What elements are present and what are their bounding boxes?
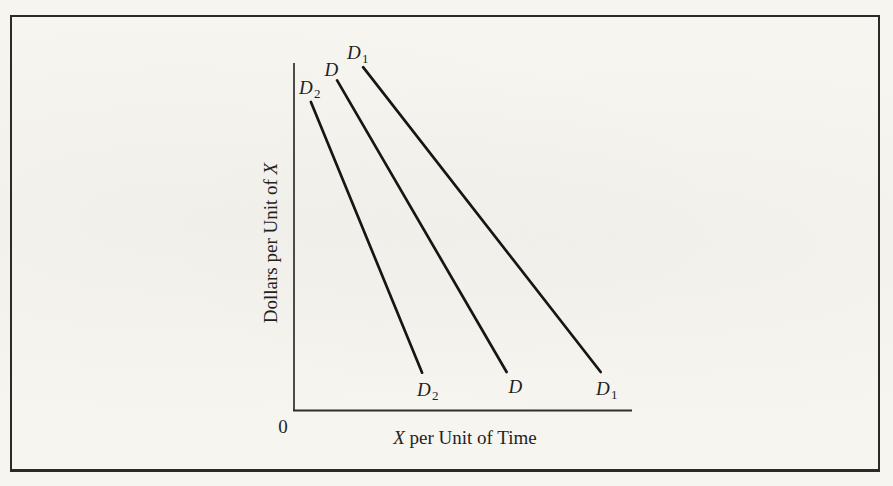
y-axis-label-italic: X <box>260 163 281 175</box>
y-axis-label-rest: Dollars per Unit of <box>260 174 281 323</box>
curve-label-D-bottom: D <box>508 377 523 399</box>
x-axis-label-italic: X <box>393 427 405 448</box>
curve-label-D1-bottom: D1 <box>596 379 618 401</box>
demand-curves-group <box>311 67 601 373</box>
curve-label-subscript: 2 <box>432 388 439 403</box>
x-axis-label-rest: per Unit of Time <box>405 427 537 448</box>
curve-label-text: D <box>596 378 610 399</box>
demand-chart-svg <box>0 0 893 486</box>
figure-canvas: D2 D D1 D2 D D1 X per Unit of Time Dolla… <box>0 0 893 486</box>
demand-curve-D1 <box>363 67 601 372</box>
x-axis-label: X per Unit of Time <box>393 428 537 447</box>
curve-label-D2-bottom: D2 <box>417 380 439 402</box>
curve-label-text: D <box>347 42 361 63</box>
curve-label-D1-top: D1 <box>347 43 369 65</box>
demand-curve-D2 <box>311 102 422 373</box>
curve-label-D2-top: D2 <box>299 78 321 100</box>
curve-label-subscript: 2 <box>314 86 321 101</box>
curve-label-text: D <box>299 77 313 98</box>
curve-label-subscript: 1 <box>362 51 369 66</box>
curve-label-text: D <box>508 376 522 397</box>
curve-label-text: D <box>417 379 431 400</box>
y-axis-label: Dollars per Unit of X <box>261 163 280 323</box>
curve-label-subscript: 1 <box>611 387 618 402</box>
curve-label-text: D <box>324 59 338 80</box>
curve-label-D-top: D <box>324 60 339 82</box>
origin-label: 0 <box>278 417 288 436</box>
